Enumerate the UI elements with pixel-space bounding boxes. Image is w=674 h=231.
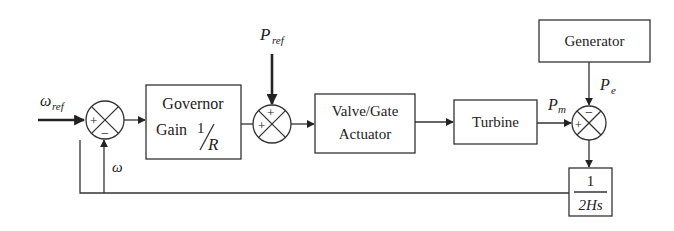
pe-symbol: P: [599, 76, 610, 93]
omega-ref-subscript: ref: [52, 100, 66, 112]
inertia-numerator: 1: [587, 173, 595, 189]
valve-label-line1: Valve/Gate: [332, 103, 399, 119]
p-ref-symbol: P: [259, 25, 270, 44]
pm-subscript: m: [558, 103, 566, 115]
summing-junction-1: + −: [86, 101, 124, 141]
governor-gain-denominator: R: [207, 135, 219, 154]
generator-label: Generator: [565, 33, 625, 49]
generator-block: Generator: [539, 20, 650, 62]
pm-symbol: P: [547, 96, 558, 113]
valve-gate-actuator-block: Valve/Gate Actuator: [315, 94, 415, 153]
sum1-plus-sign: +: [90, 113, 97, 128]
p-ref-subscript: ref: [272, 34, 286, 46]
summing-junction-3: + −: [572, 105, 606, 140]
inertia-denominator: 2Hs: [578, 197, 602, 213]
pe-subscript: e: [611, 84, 616, 96]
omega-ref-input: ω ref: [38, 92, 84, 120]
governor-gain-block: Governor Gain 1 R: [146, 85, 241, 159]
p-ref-input: P ref: [259, 25, 286, 104]
valve-label-line2: Actuator: [339, 126, 391, 142]
governor-gain-numerator: 1: [197, 120, 205, 136]
governor-label: Governor: [162, 95, 224, 112]
governor-gain-label: Gain: [156, 121, 187, 138]
turbine-block: Turbine: [454, 100, 537, 144]
sum3-minus-sign: −: [585, 105, 593, 120]
sum3-plus-sign: +: [575, 118, 582, 132]
summing-junction-2: + +: [253, 105, 291, 143]
omega-feedback-symbol: ω: [112, 159, 123, 175]
omega-ref-symbol: ω: [40, 92, 51, 109]
inertia-transfer-block: 1 2Hs: [569, 168, 612, 216]
sum2-left-plus-sign: +: [258, 118, 265, 133]
turbine-label: Turbine: [472, 114, 519, 130]
sum2-top-plus-sign: +: [267, 105, 274, 120]
governor-control-block-diagram: ω ref + − Governor Gain 1 R P ref + +: [0, 0, 674, 231]
sum1-minus-sign: −: [101, 126, 109, 141]
